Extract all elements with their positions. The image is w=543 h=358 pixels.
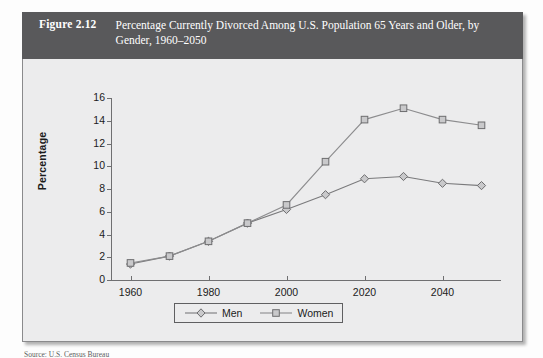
data-point-square: [400, 105, 407, 112]
series-women: [127, 105, 485, 266]
data-point-square: [439, 116, 446, 123]
data-point-diamond: [360, 175, 368, 183]
legend-entry-men[interactable]: Men: [184, 307, 242, 319]
data-point-square: [478, 122, 485, 129]
legend-line-diamond-icon: [184, 307, 218, 319]
series-line: [131, 108, 482, 263]
figure-container: Figure 2.12 Percentage Currently Divorce…: [0, 0, 543, 358]
chart-legend: Men Women: [174, 303, 343, 323]
legend-line-square-icon: [259, 307, 293, 319]
figure-header-band: Figure 2.12 Percentage Currently Divorce…: [22, 12, 523, 59]
figure-source-note: Source: U.S. Census Bureau: [24, 350, 524, 358]
data-point-square: [205, 238, 212, 245]
data-point-square: [244, 220, 251, 227]
figure-title: Percentage Currently Divorced Among U.S.…: [116, 18, 509, 48]
data-point-square: [166, 253, 173, 260]
data-point-square: [322, 158, 329, 165]
chart-plot-area: Percentage 0246810121416 196019802000202…: [23, 59, 522, 340]
data-point-diamond: [399, 172, 407, 180]
data-point-square: [283, 202, 290, 209]
data-point-square: [127, 260, 134, 267]
data-point-diamond: [477, 181, 485, 189]
legend-label-men: Men: [222, 307, 242, 319]
figure-body: Percentage 0246810121416 196019802000202…: [22, 59, 523, 342]
figure-panel: Figure 2.12 Percentage Currently Divorce…: [22, 12, 523, 342]
chart-series-layer: [23, 59, 522, 340]
data-point-diamond: [321, 191, 329, 199]
data-point-diamond: [438, 179, 446, 187]
data-point-square: [361, 116, 368, 123]
legend-label-women: Women: [297, 307, 333, 319]
legend-entry-women[interactable]: Women: [259, 307, 333, 319]
figure-number: Figure 2.12: [39, 18, 97, 30]
series-men: [126, 172, 485, 268]
